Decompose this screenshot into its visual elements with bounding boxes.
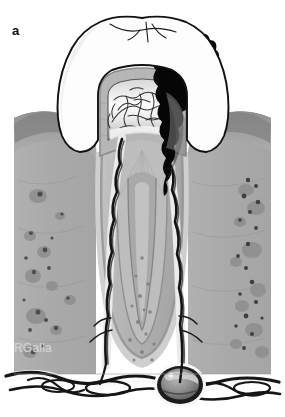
periapical-lesion	[154, 363, 206, 407]
artist-credit-watermark: RGalla	[14, 342, 52, 354]
panel-label: a	[12, 24, 19, 37]
figure-panel: a RGalla	[0, 0, 285, 417]
